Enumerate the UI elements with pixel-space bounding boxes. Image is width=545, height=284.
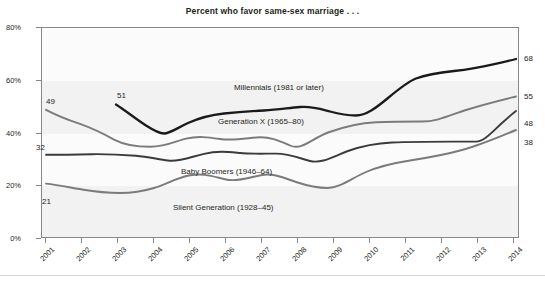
start-value-generation-x: 49: [46, 97, 55, 106]
x-axis-label-2003: 2003: [110, 245, 128, 263]
y-axis-label-60: 60%: [0, 75, 21, 84]
x-tick-2004: [153, 238, 154, 243]
x-axis-label-2014: 2014: [506, 245, 524, 263]
x-tick-2003: [117, 238, 118, 243]
series-lines: [42, 28, 519, 238]
x-axis-label-2004: 2004: [146, 245, 164, 263]
x-tick-2001: [45, 238, 46, 243]
y-tick-60: [36, 80, 41, 81]
x-tick-2014: [513, 238, 514, 243]
start-value-silent-generation: 21: [42, 197, 51, 206]
end-value-baby-boomers: 48: [524, 119, 533, 128]
y-tick-40: [36, 133, 41, 134]
series-label-silent-generation: Silent Generation (1928–45): [173, 203, 274, 212]
x-axis-label-2005: 2005: [182, 245, 200, 263]
y-axis-label-20: 20%: [0, 181, 21, 190]
series-label-millennials: Millennials (1981 or later): [234, 83, 324, 92]
x-tick-2008: [297, 238, 298, 243]
end-value-silent-generation: 38: [524, 138, 533, 147]
x-axis-label-2002: 2002: [74, 245, 92, 263]
x-tick-2012: [441, 238, 442, 243]
series-label-baby-boomers: Baby Boomers (1946–64): [181, 167, 272, 176]
start-value-baby-boomers: 32: [36, 143, 45, 152]
x-axis-label-2012: 2012: [434, 245, 452, 263]
x-tick-2002: [81, 238, 82, 243]
x-axis-label-2009: 2009: [326, 245, 344, 263]
plot-area: [41, 27, 519, 238]
footer-divider: [0, 275, 545, 276]
end-value-generation-x: 55: [524, 92, 533, 101]
x-tick-2007: [261, 238, 262, 243]
x-tick-2005: [189, 238, 190, 243]
start-value-millennials: 51: [117, 91, 126, 100]
y-tick-20: [36, 185, 41, 186]
y-tick-0: [36, 238, 41, 239]
x-tick-2006: [225, 238, 226, 243]
x-tick-2010: [369, 238, 370, 243]
x-axis-label-2001: 2001: [38, 245, 56, 263]
x-axis-label-2007: 2007: [254, 245, 272, 263]
y-axis-label-40: 40%: [0, 128, 21, 137]
end-value-millennials: 68: [524, 54, 533, 63]
x-axis-label-2008: 2008: [290, 245, 308, 263]
x-axis-label-2010: 2010: [362, 245, 380, 263]
chart-page: Percent who favor same-sex marriage . . …: [0, 0, 545, 284]
y-axis-label-80: 80%: [0, 23, 21, 32]
line-millennials: [116, 59, 516, 134]
x-tick-2009: [333, 238, 334, 243]
y-axis-label-0: 0%: [0, 234, 21, 243]
line-silent-generation: [46, 130, 516, 193]
series-label-generation-x: Generation X (1965–80): [218, 117, 304, 126]
y-tick-80: [36, 27, 41, 28]
x-axis-label-2013: 2013: [470, 245, 488, 263]
x-tick-2011: [405, 238, 406, 243]
x-tick-2013: [477, 238, 478, 243]
chart-title: Percent who favor same-sex marriage . . …: [0, 6, 545, 16]
x-axis-label-2006: 2006: [218, 245, 236, 263]
x-axis-label-2011: 2011: [399, 245, 417, 263]
